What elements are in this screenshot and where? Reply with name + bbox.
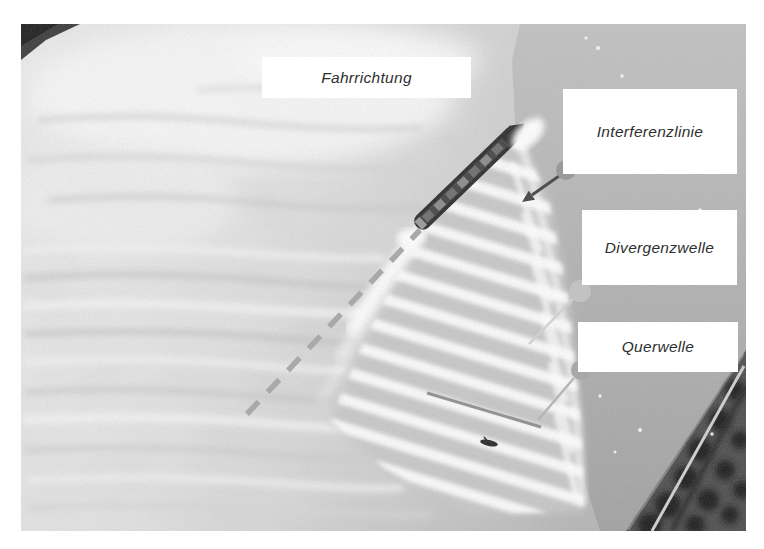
label-divergenzwelle: Divergenzwelle	[582, 210, 737, 285]
label-interferenzlinie: Interferenzlinie	[563, 89, 737, 174]
figure-canvas: Fahrrichtung Interferenzlinie Divergenzw…	[0, 0, 764, 549]
label-divergenzwelle-text: Divergenzwelle	[605, 239, 714, 257]
label-interferenzlinie-text: Interferenzlinie	[597, 123, 703, 141]
label-querwelle-text: Querwelle	[622, 338, 694, 356]
label-fahrrichtung: Fahrrichtung	[262, 57, 471, 98]
label-querwelle: Querwelle	[578, 322, 738, 372]
label-fahrrichtung-text: Fahrrichtung	[321, 69, 412, 87]
